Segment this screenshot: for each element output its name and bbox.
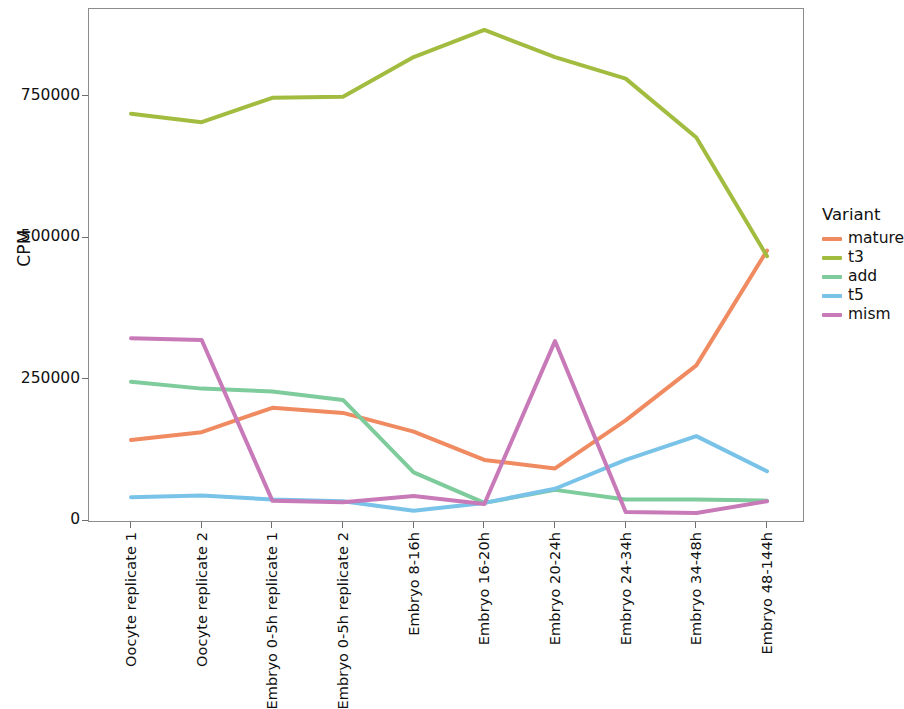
legend: Variant maturet3addt5mism xyxy=(822,205,893,324)
x-axis-tick: Embryo 0-5h replicate 1 xyxy=(264,522,280,682)
x-axis-tick-label: Embryo 24-34h xyxy=(618,532,634,645)
y-axis-tick-label: 250000 xyxy=(2,369,80,387)
x-axis-tick: Oocyte replicate 1 xyxy=(123,522,139,682)
x-axis-tick: Oocyte replicate 2 xyxy=(194,522,210,682)
legend-label: t3 xyxy=(848,250,864,266)
x-axis-tick-label: Embryo 48-144h xyxy=(759,532,775,654)
x-axis-tick-label: Embryo 16-20h xyxy=(476,532,492,645)
x-axis-tick: Embryo 20-24h xyxy=(547,522,563,682)
legend-item-t5[interactable]: t5 xyxy=(822,286,893,305)
y-axis-tick-label: 500000 xyxy=(2,227,80,245)
x-axis-tick-label: Embryo 0-5h replicate 1 xyxy=(264,532,280,709)
series-line-t3 xyxy=(131,30,767,256)
legend-entries: maturet3addt5mism xyxy=(822,229,893,324)
legend-color-swatch-t3 xyxy=(822,256,842,260)
plot-area xyxy=(88,8,804,522)
legend-color-swatch-mism xyxy=(822,313,842,317)
x-axis-tick-mark xyxy=(271,522,272,528)
x-axis-tick-mark xyxy=(130,522,131,528)
legend-item-add[interactable]: add xyxy=(822,267,893,286)
legend-label: t5 xyxy=(848,288,864,304)
x-axis-tick-mark xyxy=(695,522,696,528)
x-axis-tick-mark xyxy=(201,522,202,528)
x-axis-tick-mark xyxy=(554,522,555,528)
x-axis-tick-label: Embryo 8-16h xyxy=(406,532,422,636)
series-line-mature xyxy=(131,251,767,469)
x-axis-tick: Embryo 16-20h xyxy=(476,522,492,682)
y-axis-tick-labels: 0250000500000750000 xyxy=(0,0,80,693)
x-axis-tick-mark xyxy=(483,522,484,528)
x-axis-tick-mark xyxy=(413,522,414,528)
legend-item-t3[interactable]: t3 xyxy=(822,248,893,267)
x-axis-tick: Embryo 24-34h xyxy=(618,522,634,682)
x-axis-tick-label: Embryo 34-48h xyxy=(688,532,704,645)
x-axis-tick-mark xyxy=(342,522,343,528)
legend-label: mature xyxy=(848,231,904,247)
legend-item-mature[interactable]: mature xyxy=(822,229,893,248)
x-axis-tick-labels: Oocyte replicate 1Oocyte replicate 2Embr… xyxy=(88,522,804,692)
y-axis-tick-label: 750000 xyxy=(2,86,80,104)
x-axis-tick: Embryo 8-16h xyxy=(406,522,422,682)
legend-color-swatch-t5 xyxy=(822,294,842,298)
x-axis-tick: Embryo 34-48h xyxy=(688,522,704,682)
x-axis-tick: Embryo 0-5h replicate 2 xyxy=(335,522,351,682)
legend-label: add xyxy=(848,269,877,285)
x-axis-tick-label: Oocyte replicate 2 xyxy=(194,532,210,667)
legend-item-mism[interactable]: mism xyxy=(822,305,893,324)
x-axis-tick-mark xyxy=(766,522,767,528)
x-axis-tick: Embryo 48-144h xyxy=(759,522,775,682)
x-axis-tick-label: Embryo 0-5h replicate 2 xyxy=(335,532,351,709)
x-axis-tick-mark xyxy=(625,522,626,528)
x-axis-tick-label: Oocyte replicate 1 xyxy=(123,532,139,667)
legend-color-swatch-mature xyxy=(822,237,842,241)
legend-color-swatch-add xyxy=(822,275,842,279)
series-lines xyxy=(89,9,803,521)
x-axis-tick-label: Embryo 20-24h xyxy=(547,532,563,645)
legend-title: Variant xyxy=(822,205,893,224)
y-axis-tick-label: 0 xyxy=(2,510,80,528)
legend-label: mism xyxy=(848,307,891,323)
